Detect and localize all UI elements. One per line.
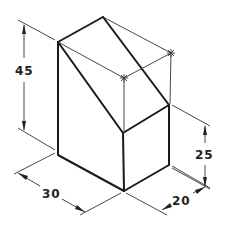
arrow-up-icon — [203, 125, 207, 135]
dimension-25: 25 — [172, 105, 214, 188]
short-top-edge — [123, 105, 169, 133]
dimension-20: 20 — [126, 168, 210, 215]
arrow-left-icon — [18, 173, 28, 180]
extension-line-top — [172, 105, 210, 126]
projection-line-3 — [124, 53, 171, 78]
arrow-right-icon — [75, 205, 85, 212]
arrow-right-icon — [195, 187, 205, 194]
star-marker-1 — [120, 74, 128, 82]
star-marker-2 — [167, 49, 175, 57]
arrow-down-icon — [22, 121, 26, 131]
dim-label-20: 20 — [172, 194, 191, 208]
dim-label-25: 25 — [195, 148, 214, 162]
extension-line-left — [126, 193, 167, 215]
projection-line-1 — [58, 42, 124, 78]
top-edge — [58, 17, 103, 42]
bottom-right-edge — [124, 165, 169, 191]
arrow-left-icon — [162, 203, 172, 210]
isometric-drawing: 45 30 25 20 — [0, 0, 227, 238]
extension-line-bottom — [18, 128, 55, 150]
extension-line-right — [80, 193, 121, 215]
slope-edge-front — [58, 42, 123, 133]
dimension-30: 30 — [14, 153, 121, 215]
projection-line-5 — [170, 53, 171, 104]
projection-line-2 — [103, 17, 171, 53]
dim-label-30: 30 — [42, 187, 61, 201]
front-vertical-edge — [123, 133, 124, 191]
left-face-edges — [58, 42, 124, 191]
slope-edge-back — [103, 17, 169, 105]
extension-line-left — [14, 153, 55, 174]
dim-label-45: 45 — [15, 64, 34, 78]
dimension-45: 45 — [15, 20, 55, 150]
arrow-up-icon — [22, 24, 26, 34]
